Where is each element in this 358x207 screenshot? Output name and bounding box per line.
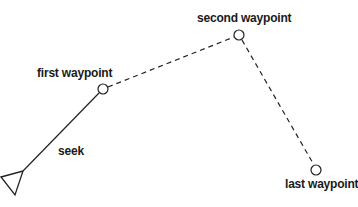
first-waypoint-label: first waypoint [37, 67, 112, 79]
first-waypoint-circle-icon [98, 84, 108, 94]
last-waypoint-circle-icon [311, 165, 321, 175]
agent-triangle-icon [1, 171, 23, 195]
second-waypoint-label: second waypoint [197, 12, 291, 24]
second-waypoint-circle-icon [234, 30, 244, 40]
seek-line [23, 93, 99, 171]
path-segment-second-to-last [242, 40, 314, 165]
seek-label: seek [58, 145, 84, 157]
path-segment-first-to-second [108, 37, 234, 87]
last-waypoint-label: last waypoint [285, 178, 358, 190]
